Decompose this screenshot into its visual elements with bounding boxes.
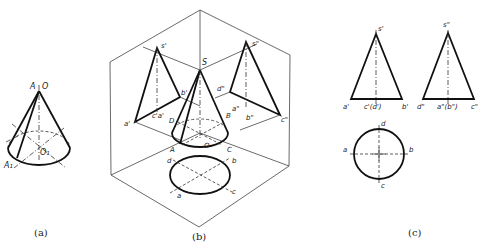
caption-a: (a) [34,227,48,238]
label-A1: A₁ [3,161,13,170]
label-s-prime-c: s' [378,25,384,33]
label-c-double: c" [281,116,288,124]
label-c: c [232,188,236,196]
label-O: O [204,142,210,150]
front-view [351,34,402,99]
label-b-prime-c: b' [402,103,408,111]
label-a: a [177,192,181,200]
label-O1: O₁ [40,148,50,157]
caption-b: (b) [192,231,206,242]
label-a-prime-c: a' [343,103,349,111]
label-C: C [227,146,232,154]
label-B: B [226,112,231,120]
label-c-a-prime: c'a' [152,112,164,120]
panel-b-three-plane-projection: s' s" S a' b' c'a' d" a" b" c" D B A O C… [110,10,290,242]
label-A: A [29,82,35,91]
label-b-double: b" [246,114,254,122]
cone-projection-figure: A O A₁ O₁ (a) [0,0,491,250]
label-c-d-prime: c'(d') [364,103,382,111]
label-d: d [167,157,172,165]
label-d-double: d" [217,85,225,93]
label-a-double: a" [232,105,240,113]
panel-c-orthographic-views: s' a' c'(d') b' s" d" a"(b") c" d a b c … [343,21,478,238]
label-A: A [169,146,175,154]
label-b-prime: b' [181,89,187,97]
label-s-double-c: s" [443,21,450,29]
panel-a-cone: A O A₁ O₁ (a) [3,82,70,238]
label-d-double-c: d" [417,103,425,111]
label-s-double: s" [252,40,259,48]
label-b: b [232,157,237,165]
label-b-c: b [409,146,414,154]
label-s-prime: s' [161,42,167,50]
label-D: D [169,117,175,125]
label-c-double-c: c" [471,103,478,111]
label-S: S [202,58,207,67]
label-a-c: a [343,146,347,154]
caption-c: (c) [408,227,422,238]
label-a-b-double: a"(b") [437,103,458,111]
side-view [423,33,474,99]
label-c-c: c [381,182,385,190]
label-d-c: d [381,120,386,128]
label-a-prime: a' [124,120,130,128]
label-O: O [42,82,48,91]
